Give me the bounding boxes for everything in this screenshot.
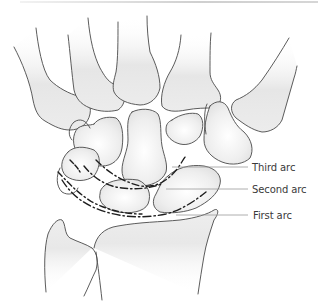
triquetrum-bone	[62, 147, 100, 180]
second-arc-label: Second arc	[252, 184, 307, 195]
metacarpal-4	[68, 18, 125, 111]
ulna-lower-edge	[84, 248, 97, 296]
metacarpal-3	[113, 16, 160, 105]
radius-ulnar-edge	[96, 252, 102, 300]
radius-bone	[94, 209, 218, 294]
first-arc-label: First arc	[253, 210, 292, 221]
ulna-bone	[45, 220, 92, 292]
metacarpal-1	[232, 38, 298, 132]
metacarpal-2	[161, 33, 220, 111]
third-arc-label: Third arc	[252, 162, 295, 173]
wrist-diagram	[0, 0, 318, 308]
trapezoid-bone	[166, 113, 203, 144]
capitate-bone	[122, 109, 167, 186]
